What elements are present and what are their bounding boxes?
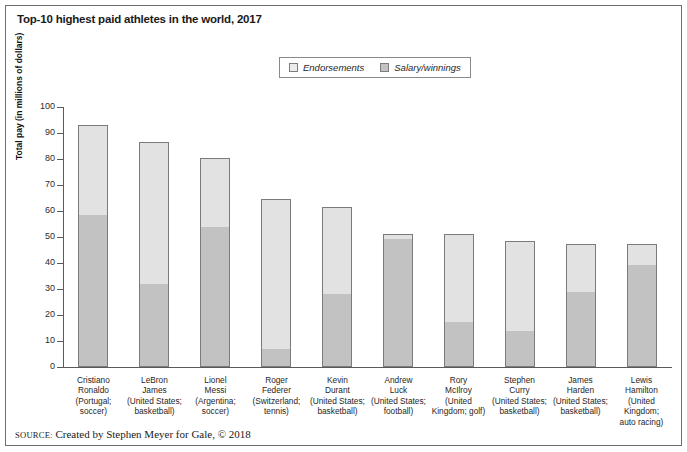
bar-segment-endorsements: [201, 159, 229, 229]
bar-segment-salary: [628, 265, 656, 366]
y-tick-mark: [57, 185, 64, 186]
bar-segment-endorsements: [506, 242, 534, 333]
bar-stack: [444, 234, 474, 367]
bar-segment-salary: [262, 349, 290, 366]
y-tick-mark: [57, 263, 64, 264]
bar-stack: [505, 241, 535, 367]
x-axis-label-line: (United States;: [368, 396, 429, 406]
plot-area: Total pay (in millions of dollars) 01020…: [0, 0, 687, 452]
x-axis-label-line: basketball): [307, 406, 368, 416]
x-axis-label-line: (Switzerland;: [246, 396, 307, 406]
bar-segment-salary: [323, 294, 351, 366]
x-axis-label-line: McIlroy: [428, 385, 489, 395]
x-axis-label: LionelMessi(Argentina;soccer): [185, 375, 246, 417]
bar-stack: [627, 244, 657, 368]
y-tick-mark: [57, 367, 64, 368]
x-axis-label-line: Cristiano: [63, 375, 124, 385]
x-axis-label-line: (United Kingdom;: [611, 396, 672, 417]
x-axis-label: LeBronJames(United States;basketball): [124, 375, 185, 417]
bar-stack: [322, 207, 352, 367]
y-tick-label: 80: [31, 153, 55, 163]
x-axis-label-line: soccer): [63, 406, 124, 416]
x-axis-label-line: Lewis: [611, 375, 672, 385]
x-axis-label-line: Messi: [185, 385, 246, 395]
x-axis-label-line: Lionel: [185, 375, 246, 385]
x-axis-label: RogerFederer(Switzerland;tennis): [246, 375, 307, 417]
bar-segment-endorsements: [262, 200, 290, 351]
x-axis-label-line: (United States;: [550, 396, 611, 406]
x-axis-label-line: (Portugal;: [63, 396, 124, 406]
y-tick-label: 30: [31, 283, 55, 293]
x-axis-label-line: (United States;: [307, 396, 368, 406]
x-axis-label-line: Kingdom; golf): [428, 406, 489, 416]
bar-segment-endorsements: [445, 235, 473, 323]
bar-segment-salary: [140, 284, 168, 366]
x-axis-label-line: tennis): [246, 406, 307, 416]
x-axis-label-line: football): [368, 406, 429, 416]
x-axis-label-line: soccer): [185, 406, 246, 416]
x-axis-label-line: Hamilton: [611, 385, 672, 395]
x-axis-label-line: Curry: [489, 385, 550, 395]
bar-segment-salary: [567, 292, 595, 366]
y-tick-mark: [57, 237, 64, 238]
x-axis-label-line: auto racing): [611, 417, 672, 427]
y-tick-mark: [57, 133, 64, 134]
y-tick-label: 90: [31, 127, 55, 137]
x-axis-label-line: Ronaldo: [63, 385, 124, 395]
y-tick-label: 20: [31, 309, 55, 319]
y-tick-label: 60: [31, 205, 55, 215]
x-axis-label-line: Harden: [550, 385, 611, 395]
x-axis-label: KevinDurant(United States;basketball): [307, 375, 368, 417]
x-axis-label-line: Kevin: [307, 375, 368, 385]
bar-stack: [200, 158, 230, 367]
x-axis-label: LewisHamilton(United Kingdom;auto racing…: [611, 375, 672, 427]
x-axis-label-line: Stephen: [489, 375, 550, 385]
y-tick-mark: [57, 107, 64, 108]
bar-stack: [78, 125, 108, 367]
y-tick-label: 10: [31, 335, 55, 345]
y-tick-mark: [57, 341, 64, 342]
x-axis-label-line: basketball): [489, 406, 550, 416]
x-axis-label-line: Luck: [368, 385, 429, 395]
x-axis-label: AndrewLuck(United States;football): [368, 375, 429, 417]
y-tick-mark: [57, 211, 64, 212]
x-axis-label-line: James: [550, 375, 611, 385]
x-axis-label: JamesHarden(United States;basketball): [550, 375, 611, 417]
bar-segment-salary: [445, 322, 473, 366]
y-tick-mark: [57, 159, 64, 160]
x-axis-label-line: (United States;: [489, 396, 550, 406]
x-axis-label: RoryMcIlroy(UnitedKingdom; golf): [428, 375, 489, 417]
x-axis-label-line: (United: [428, 396, 489, 406]
x-axis-label-line: basketball): [124, 406, 185, 416]
bar-segment-salary: [201, 227, 229, 366]
bar-stack: [566, 244, 596, 368]
y-tick-label: 50: [31, 231, 55, 241]
bar-segment-salary: [506, 331, 534, 366]
source-note: SOURCE: Created by Stephen Meyer for Gal…: [15, 428, 251, 440]
x-axis-label-line: basketball): [550, 406, 611, 416]
y-tick-label: 100: [31, 101, 55, 111]
bar-stack: [383, 234, 413, 367]
y-tick-label: 70: [31, 179, 55, 189]
x-axis-label: CristianoRonaldo(Portugal;soccer): [63, 375, 124, 417]
x-axis-label-line: Rory: [428, 375, 489, 385]
bar-segment-endorsements: [323, 208, 351, 296]
bar-segment-salary: [384, 239, 412, 366]
bar-stack: [139, 142, 169, 367]
x-axis-label-line: Roger: [246, 375, 307, 385]
bar-segment-endorsements: [567, 245, 595, 294]
x-axis-label-line: (Argentina;: [185, 396, 246, 406]
x-axis-label-line: James: [124, 385, 185, 395]
bar-segment-salary: [79, 215, 107, 366]
x-axis-label-line: (United States;: [124, 396, 185, 406]
bar-segment-endorsements: [140, 143, 168, 286]
x-axis-label-line: Andrew: [368, 375, 429, 385]
source-text: Created by Stephen Meyer for Gale, © 201…: [55, 428, 250, 440]
x-axis-label-line: Durant: [307, 385, 368, 395]
bar-segment-endorsements: [628, 245, 656, 267]
bar-segment-endorsements: [79, 126, 107, 217]
x-axis-label: StephenCurry(United States;basketball): [489, 375, 550, 417]
x-axis-label-line: Federer: [246, 385, 307, 395]
x-axis-label-line: LeBron: [124, 375, 185, 385]
chart-figure: Top-10 highest paid athletes in the worl…: [0, 0, 687, 452]
